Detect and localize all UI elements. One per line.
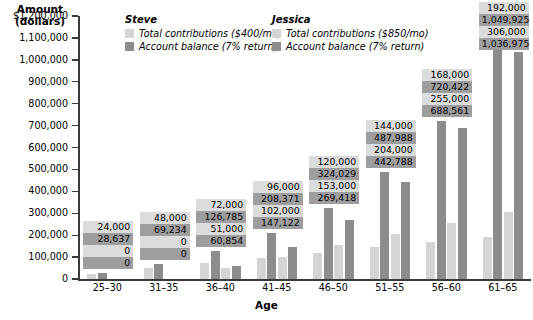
y-axis-tick-label: $1,200,000 — [0, 10, 68, 21]
y-axis-tick — [72, 81, 78, 82]
bar-balance-steve — [437, 121, 446, 279]
value-label-balance-steve: 487,988 — [366, 132, 416, 144]
y-axis-tick-label: 700,000 — [0, 120, 68, 131]
value-label-contributions-steve: 168,000 — [422, 69, 472, 81]
x-axis-tick-label: 56–60 — [418, 282, 475, 293]
value-label-balance-jessica: 0 — [83, 257, 133, 269]
x-axis-tick-label: 31–35 — [136, 282, 193, 293]
y-axis-tick — [72, 147, 78, 148]
bar-balance-steve — [380, 172, 389, 279]
value-label-contributions-jessica: 255,000 — [422, 93, 472, 105]
value-label-balance-jessica: 688,561 — [422, 105, 472, 117]
value-label-balance-steve: 720,422 — [422, 81, 472, 93]
value-label-contributions-jessica: 306,000 — [479, 26, 529, 38]
y-axis-tick-label: 1,100,000 — [0, 32, 68, 43]
value-label-contributions-jessica: 51,000 — [196, 223, 246, 235]
x-axis-tick-label: 46–50 — [305, 282, 362, 293]
value-label-balance-jessica: 269,418 — [309, 192, 359, 204]
bar-balance-steve — [493, 49, 502, 279]
bar-balance-steve — [154, 264, 163, 279]
bar-contributions-jessica — [447, 223, 456, 279]
bar-contributions-jessica — [504, 212, 513, 279]
y-axis-tick — [72, 256, 78, 257]
bar-contributions-steve — [426, 242, 435, 279]
bar-group — [475, 16, 532, 279]
y-axis-tick — [72, 15, 78, 16]
bar-balance-jessica — [232, 266, 241, 279]
bar-balance-steve — [324, 208, 333, 279]
y-axis-tick — [72, 37, 78, 38]
bar-balance-jessica — [401, 182, 410, 279]
value-label-contributions-steve: 48,000 — [140, 212, 190, 224]
y-axis-tick — [72, 191, 78, 192]
bar-balance-steve — [98, 273, 107, 279]
y-axis-tick-label: 1,000,000 — [0, 54, 68, 65]
bar-contributions-steve — [313, 253, 322, 279]
value-label-contributions-steve: 144,000 — [366, 120, 416, 132]
y-axis-tick — [72, 103, 78, 104]
bar-contributions-jessica — [278, 257, 287, 279]
value-label-balance-jessica: 1,036,975 — [479, 38, 529, 50]
bar-contributions-steve — [257, 258, 266, 279]
value-label-balance-jessica: 442,788 — [366, 156, 416, 168]
y-axis-tick — [72, 169, 78, 170]
value-label-balance-steve: 324,029 — [309, 168, 359, 180]
y-axis-tick-label: 600,000 — [0, 142, 68, 153]
bar-balance-steve — [211, 251, 220, 279]
y-axis-tick-label: 800,000 — [0, 98, 68, 109]
value-label-balance-steve: 126,785 — [196, 211, 246, 223]
bar-balance-jessica — [288, 247, 297, 279]
bar-balance-jessica — [514, 52, 523, 279]
y-axis-tick — [72, 125, 78, 126]
x-axis-tick-label: 41–45 — [249, 282, 306, 293]
value-label-contributions-steve: 24,000 — [83, 221, 133, 233]
bar-contributions-steve — [144, 268, 153, 279]
value-label-contributions-jessica: 0 — [83, 245, 133, 257]
x-axis-tick-label: 61–65 — [475, 282, 532, 293]
value-label-contributions-steve: 192,000 — [479, 2, 529, 14]
value-label-balance-jessica: 0 — [140, 248, 190, 260]
bar-contributions-jessica — [221, 268, 230, 279]
value-label-balance-jessica: 147,122 — [253, 217, 303, 229]
value-label-balance-steve: 28,637 — [83, 233, 133, 245]
bar-balance-jessica — [458, 128, 467, 279]
y-axis-tick — [72, 278, 78, 279]
y-axis-tick-label: 500,000 — [0, 163, 68, 174]
bar-contributions-steve — [483, 237, 492, 279]
y-axis-tick-label: 200,000 — [0, 229, 68, 240]
y-axis-tick — [72, 213, 78, 214]
y-axis-tick-label: 100,000 — [0, 251, 68, 262]
value-label-balance-steve: 1,049,925 — [479, 14, 529, 26]
y-axis-tick-label: 0 — [0, 273, 68, 284]
bar-balance-steve — [267, 233, 276, 279]
y-axis-tick — [72, 235, 78, 236]
value-label-contributions-steve: 72,000 — [196, 199, 246, 211]
bar-group — [418, 16, 475, 279]
x-axis-tick-label: 25–30 — [79, 282, 136, 293]
retirement-savings-bar-chart: Amount (dollars) Steve Total contributio… — [0, 0, 533, 320]
value-label-contributions-steve: 96,000 — [253, 181, 303, 193]
bar-group — [305, 16, 362, 279]
bar-contributions-steve — [200, 263, 209, 279]
y-axis-tick-label: 300,000 — [0, 207, 68, 218]
value-label-contributions-jessica: 0 — [140, 236, 190, 248]
bar-contributions-steve — [87, 274, 96, 279]
value-label-contributions-jessica: 204,000 — [366, 144, 416, 156]
x-axis-line — [78, 279, 531, 281]
value-label-contributions-jessica: 102,000 — [253, 205, 303, 217]
value-label-contributions-steve: 120,000 — [309, 156, 359, 168]
bar-contributions-jessica — [334, 245, 343, 279]
bar-group — [249, 16, 306, 279]
y-axis-tick-label: 900,000 — [0, 76, 68, 87]
bar-balance-jessica — [345, 220, 354, 279]
value-label-balance-steve: 69,234 — [140, 224, 190, 236]
y-axis-tick-label: 400,000 — [0, 185, 68, 196]
y-axis-tick — [72, 59, 78, 60]
bar-contributions-steve — [370, 247, 379, 279]
bar-contributions-jessica — [391, 234, 400, 279]
x-axis-tick-label: 51–55 — [362, 282, 419, 293]
x-axis-title: Age — [0, 299, 533, 311]
x-axis-tick-label: 36–40 — [192, 282, 249, 293]
value-label-balance-steve: 208,371 — [253, 193, 303, 205]
value-label-balance-jessica: 60,854 — [196, 235, 246, 247]
